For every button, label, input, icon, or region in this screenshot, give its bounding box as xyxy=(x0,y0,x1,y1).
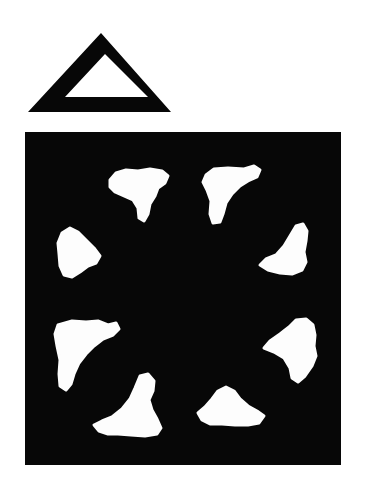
figure-root: Outlined triangle above a black square c… xyxy=(0,0,366,492)
figure-canvas xyxy=(0,0,366,492)
black-square-panel xyxy=(25,132,341,465)
